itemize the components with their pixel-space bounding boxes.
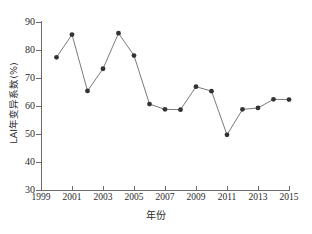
data-point [70,32,75,37]
data-point [271,97,276,102]
data-point [163,107,168,112]
data-series-layer [0,0,312,234]
data-point [209,89,214,94]
data-point [85,88,90,93]
data-point [225,132,230,137]
line-chart-figure: 30405060708090 1999200120032005200720092… [0,0,312,234]
series-markers [54,31,291,137]
data-point [132,53,137,58]
data-point [147,102,152,107]
data-point [101,66,106,71]
data-point [240,107,245,112]
data-point [194,84,199,89]
data-point [178,107,183,112]
series-line [57,33,290,135]
data-point [54,55,59,60]
data-point [116,31,121,36]
data-point [256,106,261,111]
data-point [287,97,292,102]
